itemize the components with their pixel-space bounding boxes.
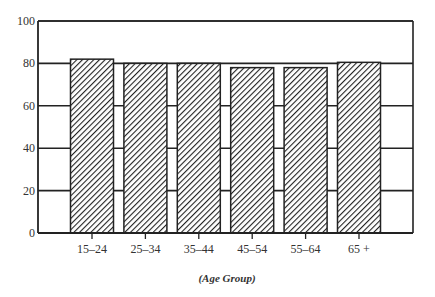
y-tick-label: 80 (23, 56, 35, 70)
bar (177, 63, 220, 233)
x-axis-title: (Age Group) (198, 272, 255, 285)
bar (231, 68, 274, 233)
bar-chart: 020406080100 15–2425–3435–4445–5455–6465… (0, 0, 435, 297)
x-tick-label: 35–44 (184, 242, 214, 256)
x-tick-label: 55–64 (291, 242, 321, 256)
y-tick-label: 20 (23, 184, 35, 198)
x-axis-ticks: 15–2425–3435–4445–5455–6465 + (77, 233, 370, 256)
bar (284, 68, 327, 233)
x-tick-label: 45–54 (237, 242, 267, 256)
y-axis-ticks: 020406080100 (17, 14, 35, 240)
bar (124, 63, 167, 233)
x-tick-label: 65 + (348, 242, 370, 256)
bars (71, 59, 381, 233)
y-tick-label: 60 (23, 99, 35, 113)
y-tick-label: 0 (29, 226, 35, 240)
y-tick-label: 100 (17, 14, 35, 28)
bar (71, 59, 114, 233)
y-tick-label: 40 (23, 141, 35, 155)
x-tick-label: 15–24 (77, 242, 107, 256)
x-tick-label: 25–34 (130, 242, 160, 256)
bar (338, 62, 381, 233)
